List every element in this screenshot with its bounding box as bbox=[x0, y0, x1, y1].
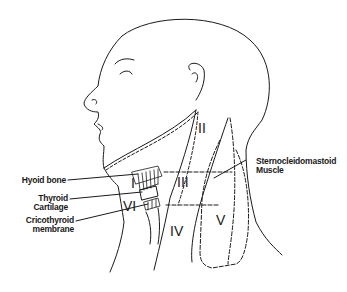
eyebrow bbox=[115, 59, 134, 64]
scm-muscle bbox=[192, 118, 228, 262]
leader-scm bbox=[214, 160, 246, 178]
leader-hyoid bbox=[68, 174, 138, 180]
level-v-region bbox=[200, 140, 249, 268]
zone-label-i: I bbox=[131, 176, 135, 190]
label-hyoid-bone: Hyoid bone bbox=[6, 176, 66, 185]
scm-muscle-dashed bbox=[228, 118, 235, 264]
zone-label-iv: IV bbox=[170, 224, 183, 238]
anatomy-line-art bbox=[0, 0, 347, 292]
head-outline bbox=[122, 19, 282, 255]
ear-inner bbox=[192, 73, 198, 82]
neck-front bbox=[104, 168, 124, 272]
label-sternocleidomastoid-muscle: Sternocleidomastoid Muscle bbox=[256, 157, 346, 175]
hyoid-thyroid-hatch bbox=[132, 166, 162, 190]
neck-levels-diagram: I II III IV V VI Hyoid bone Thyroid Cart… bbox=[0, 0, 347, 292]
thyroid-cartilage bbox=[140, 186, 158, 200]
trachea-2 bbox=[158, 208, 160, 244]
zone-label-ii: II bbox=[198, 121, 206, 135]
face-profile bbox=[84, 36, 122, 168]
jaw-line bbox=[104, 110, 196, 168]
eye-closed bbox=[120, 71, 132, 74]
level-ii-line bbox=[154, 110, 196, 270]
trachea bbox=[146, 212, 151, 244]
zone-label-v: V bbox=[216, 213, 225, 227]
label-cricothyroid-membrane: Cricothyroid membrane bbox=[4, 216, 74, 234]
nostril bbox=[92, 99, 97, 104]
zone-label-vi: VI bbox=[123, 199, 136, 213]
label-thyroid-cartilage: Thyroid Cartilage bbox=[8, 194, 68, 212]
zone-label-iii: III bbox=[177, 175, 189, 189]
leader-cricothyroid bbox=[76, 204, 148, 221]
